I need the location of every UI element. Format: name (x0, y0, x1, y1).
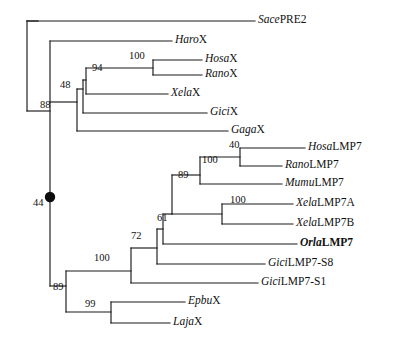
support-value-support-100-xela-ab: 100 (230, 195, 246, 206)
tip-genus-gici-lmp7-s8: Gici (268, 256, 288, 268)
tip-gene-sace-pre2: PRE2 (280, 13, 307, 25)
tip-gene-rano-lmp7: LMP7 (309, 158, 338, 170)
support-value-support-100-hosax-ranox: 100 (129, 51, 145, 62)
tip-label-epbu-x: EpbuX (188, 295, 221, 307)
node-marker-marked-node (45, 192, 55, 202)
tip-label-hosa-x: HosaX (205, 53, 238, 65)
tip-genus-gici-lmp7-s1: Gici (261, 275, 281, 287)
support-value-support-100-lmp7clade: 100 (94, 253, 110, 264)
tip-gene-laja-x: X (194, 315, 202, 327)
tip-gene-gici-lmp7-s1: LMP7-S1 (281, 275, 326, 287)
tip-label-haro-x: HaroX (175, 34, 207, 46)
tip-gene-gici-lmp7-s8: LMP7-S8 (288, 256, 333, 268)
support-value-support-48-xclade: 48 (60, 80, 71, 91)
tip-genus-rano-x: Rano (205, 67, 229, 79)
tip-label-mumu-lmp7: MumuLMP7 (285, 177, 344, 189)
tip-label-laja-x: LajaX (173, 316, 202, 328)
tip-genus-gaga-x: Gaga (231, 123, 257, 135)
tip-gene-gici-x: X (230, 105, 238, 117)
tip-gene-hosa-lmp7: LMP7 (332, 140, 361, 152)
node-markers (45, 192, 55, 202)
tip-genus-orla-lmp7: Orla (300, 236, 322, 248)
tip-gene-haro-x: X (199, 33, 207, 45)
support-value-support-61-orla: 61 (157, 213, 168, 224)
tip-label-orla-lmp7: OrlaLMP7 (300, 237, 353, 249)
tip-label-sace-pre2: SacePRE2 (258, 14, 307, 26)
tip-gene-epbu-x: X (212, 294, 220, 306)
tip-genus-laja-x: Laja (173, 315, 194, 327)
tip-label-xela-x: XelaX (171, 87, 200, 99)
tip-genus-rano-lmp7: Rano (285, 158, 309, 170)
tip-gene-orla-lmp7: LMP7 (322, 236, 353, 248)
phylogenetic-tree-figure: SacePRE2HaroXHosaXRanoXXelaXGiciXGagaXHo… (0, 0, 407, 339)
tip-gene-xela-lmp7b: LMP7B (317, 216, 354, 228)
tip-genus-mumu-lmp7: Mumu (285, 176, 314, 188)
tip-genus-hosa-x: Hosa (205, 52, 229, 64)
tip-label-rano-lmp7: RanoLMP7 (285, 159, 339, 171)
support-value-support-89-mammal-xela: 89 (178, 170, 189, 181)
tip-gene-xela-lmp7a: LMP7A (317, 196, 355, 208)
tip-label-xela-lmp7b: XelaLMP7B (296, 217, 354, 229)
tip-label-xela-lmp7a: XelaLMP7A (296, 197, 355, 209)
support-value-support-44-root-node: 44 (33, 198, 44, 209)
support-value-support-40-hosa-rano: 40 (229, 140, 240, 151)
tip-genus-gici-x: Gici (210, 105, 230, 117)
tip-label-rano-x: RanoX (205, 68, 238, 80)
tip-gene-mumu-lmp7: LMP7 (314, 176, 343, 188)
support-value-support-100-rodent-primate: 100 (202, 155, 218, 166)
support-value-support-88-xclade-gagax: 88 (40, 100, 51, 111)
tip-label-gici-x: GiciX (210, 106, 238, 118)
tip-genus-hosa-lmp7: Hosa (308, 140, 332, 152)
tip-genus-xela-x: Xela (171, 86, 192, 98)
tip-gene-rano-x: X (229, 67, 237, 79)
support-value-support-72-gicis8: 72 (131, 231, 142, 242)
support-value-support-94-mammal-xela: 94 (92, 63, 103, 74)
tip-genus-xela-lmp7b: Xela (296, 216, 317, 228)
tip-label-gici-lmp7-s1: GiciLMP7-S1 (261, 276, 326, 288)
tip-genus-sace-pre2: Sace (258, 13, 280, 25)
tip-gene-xela-x: X (192, 86, 200, 98)
tip-gene-gaga-x: X (257, 123, 265, 135)
tip-label-hosa-lmp7: HosaLMP7 (308, 141, 362, 153)
tip-label-gici-lmp7-s8: GiciLMP7-S8 (268, 257, 333, 269)
support-value-support-99-epbu-laja: 99 (85, 299, 96, 310)
support-value-support-89-lower: 89 (53, 282, 64, 293)
tip-gene-hosa-x: X (229, 52, 237, 64)
tip-label-gaga-x: GagaX (231, 124, 265, 136)
tip-genus-haro-x: Haro (175, 33, 199, 45)
tip-genus-xela-lmp7a: Xela (296, 196, 317, 208)
tip-genus-epbu-x: Epbu (188, 294, 212, 306)
